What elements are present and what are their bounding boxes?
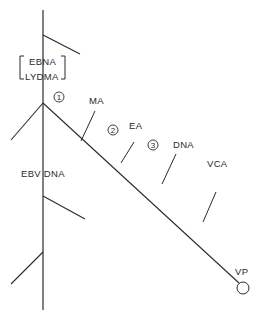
vp-end-circle (237, 282, 249, 294)
label-ebv-dna: EBV DNA (21, 168, 65, 179)
label-ma: MA (89, 95, 104, 106)
vca-tick (203, 192, 216, 222)
step-3-number: 3 (151, 141, 156, 150)
top-branch-line (43, 35, 80, 54)
ea-tick (121, 142, 134, 163)
left-branch-upper (11, 103, 43, 140)
step-1-number: 1 (57, 93, 62, 102)
bracket-label-lydma: LYDMA (25, 71, 59, 82)
label-vca: VCA (207, 158, 228, 169)
bracket-label-ebna: EBNA (29, 56, 56, 67)
diagram-canvas: EBNA LYDMA 1 VP MA 2 EA 3 DNA VCA EBV DN… (0, 0, 261, 323)
left-branch-lower (11, 252, 43, 284)
bracket-right (61, 56, 65, 79)
right-branch-lower (43, 196, 85, 219)
label-dna: DNA (173, 139, 194, 150)
label-vp: VP (235, 266, 248, 277)
dna-tick (162, 154, 176, 184)
bracket-left (20, 56, 24, 79)
step-2-number: 2 (111, 126, 116, 135)
label-ea: EA (129, 120, 143, 131)
ma-tick (81, 111, 95, 141)
